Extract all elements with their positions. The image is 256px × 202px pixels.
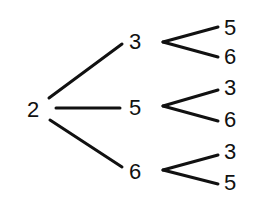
root-node: 2 [27,99,39,121]
leaf-node: 5 [224,17,236,39]
leaf-node: 6 [224,109,236,131]
leaf-node: 3 [224,77,236,99]
leaf-node: 6 [224,46,236,68]
leaf-node: 5 [224,172,236,194]
node-l1-b: 5 [129,97,141,119]
node-l1-c: 6 [129,161,141,183]
node-l1-a: 3 [129,31,141,53]
leaf-node: 3 [224,141,236,163]
